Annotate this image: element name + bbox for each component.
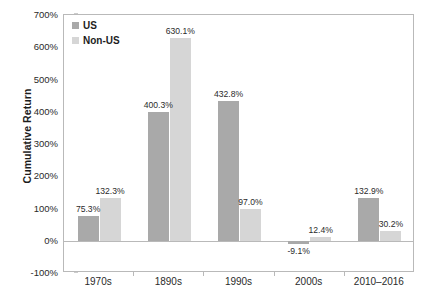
bar-us-1990s[interactable] xyxy=(218,101,239,241)
bar-value-label: 132.3% xyxy=(96,186,125,196)
legend-swatch-icon xyxy=(72,22,79,29)
y-axis-tick-label: 0% xyxy=(14,234,58,245)
y-axis-tick-label: 500% xyxy=(14,73,58,84)
x-axis-tick-label: 2010–2016 xyxy=(354,276,404,287)
x-axis-tick-label: 1890s xyxy=(155,276,182,287)
chart-legend: USNon-US xyxy=(72,19,120,49)
plot-area: 75.3%132.3%400.3%630.1%432.8%97.0%-9.1%1… xyxy=(64,15,413,271)
bar-us-20102016[interactable] xyxy=(358,198,379,241)
legend-item-non-us[interactable]: Non-US xyxy=(72,34,120,47)
bar-value-label: 75.3% xyxy=(76,204,100,214)
legend-swatch-icon xyxy=(72,37,79,44)
bar-non-us-2000s[interactable] xyxy=(310,237,331,241)
x-axis-tick-mark xyxy=(133,272,134,276)
x-axis-tick-mark xyxy=(344,272,345,276)
y-axis-tick-label: 300% xyxy=(14,138,58,149)
y-axis-tick-label: 100% xyxy=(14,202,58,213)
bar-value-label: 432.8% xyxy=(214,89,243,99)
bar-value-label: 97.0% xyxy=(238,197,262,207)
y-axis-tick-label: -100% xyxy=(14,267,58,278)
y-axis-tick-label: 700% xyxy=(14,9,58,20)
y-axis-tick-label: 200% xyxy=(14,170,58,181)
x-axis-tick-label: 1990s xyxy=(225,276,252,287)
legend-item-us[interactable]: US xyxy=(72,19,120,32)
legend-label: Non-US xyxy=(83,36,120,46)
bar-non-us-20102016[interactable] xyxy=(380,231,401,241)
bar-us-1970s[interactable] xyxy=(78,216,99,240)
x-axis-tick-label: 2000s xyxy=(295,276,322,287)
bar-value-label: 132.9% xyxy=(354,186,383,196)
x-axis-tick-mark xyxy=(274,272,275,276)
bar-chart-figure: Cumulative Return 700%600%500%400%300%20… xyxy=(0,0,425,304)
plot-frame: 75.3%132.3%400.3%630.1%432.8%97.0%-9.1%1… xyxy=(63,14,414,272)
bar-non-us-1990s[interactable] xyxy=(240,209,261,240)
bar-non-us-1970s[interactable] xyxy=(100,198,121,241)
y-axis-tick-labels: 700%600%500%400%300%200%100%0%-100% xyxy=(14,0,58,304)
bar-non-us-1890s[interactable] xyxy=(170,38,191,241)
bar-us-2000s[interactable] xyxy=(288,241,309,244)
bar-value-label: 30.2% xyxy=(379,219,403,229)
x-axis-tick-mark xyxy=(203,272,204,276)
bar-value-label: 630.1% xyxy=(166,26,195,36)
bar-value-label: 12.4% xyxy=(309,225,333,235)
bar-us-1890s[interactable] xyxy=(148,112,169,241)
legend-label: US xyxy=(83,21,97,31)
x-axis-tick-labels: 1970s1890s1990s2000s2010–2016 xyxy=(63,276,414,296)
bar-value-label: -9.1% xyxy=(287,246,309,256)
bar-value-label: 400.3% xyxy=(144,100,173,110)
y-axis-tick-label: 600% xyxy=(14,41,58,52)
zero-baseline xyxy=(64,241,413,242)
x-axis-tick-label: 1970s xyxy=(84,276,111,287)
y-axis-tick-label: 400% xyxy=(14,105,58,116)
